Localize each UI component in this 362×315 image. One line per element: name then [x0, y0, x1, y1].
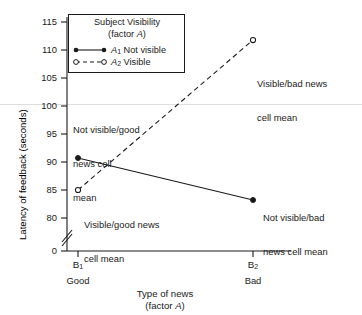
- x-tick-label-b1: B1: [58, 259, 98, 272]
- annotation-not-visible-good-line1: Not visible/good: [73, 124, 140, 135]
- x-tick-label-b2: B2: [233, 259, 273, 272]
- annotation-visible-good-line1: Visible/good news: [84, 219, 159, 230]
- y-tick-label-90: 90: [33, 156, 57, 167]
- y-tick-label-115: 115: [33, 16, 57, 27]
- legend-sample-a2: [74, 60, 107, 65]
- x-axis-title-line1: Type of news: [110, 288, 220, 299]
- legend-entry-a1-text: Not visible: [124, 45, 166, 55]
- annotation-not-visible-bad-line2: news cell mean: [263, 246, 328, 257]
- annotation-visible-bad-line2: cell mean: [257, 112, 327, 123]
- legend-title-line2: (factor A): [69, 29, 185, 40]
- legend-entry-a2-subscript: 2: [117, 60, 121, 67]
- y-tick-label-110: 110: [33, 44, 57, 55]
- annotation-not-visible-good-line2: news cell: [73, 158, 140, 169]
- y-tick-label-80: 80: [33, 212, 57, 223]
- legend-entry-a1-subscript: 1: [117, 48, 121, 55]
- line-chart-figure: 115 110 105 100 95 90 85 80 0 Latency of…: [0, 0, 362, 315]
- legend-title-prefix: (factor: [108, 29, 137, 39]
- x-axis-title-factor: A: [175, 300, 181, 311]
- y-axis-ticks: [61, 22, 67, 251]
- x-tick-label-b2-subscript: 2: [254, 263, 258, 270]
- y-tick-label-100: 100: [33, 100, 57, 111]
- legend-entry-a2-text: Visible: [124, 57, 151, 67]
- legend-sample-a1: [74, 48, 107, 53]
- y-tick-label-105: 105: [33, 72, 57, 83]
- legend-title-line1: Subject Visibility: [69, 17, 185, 28]
- y-axis-title: Latency of feedback (seconds): [17, 109, 28, 240]
- legend-entry-a1[interactable]: A1 Not visible: [111, 45, 166, 57]
- y-tick-label-95: 95: [33, 128, 57, 139]
- annotation-visible-bad-line1: Visible/bad news: [257, 78, 327, 89]
- legend-entry-a2[interactable]: A2 Visible: [111, 57, 151, 69]
- x-tick-name-good: Good: [58, 275, 98, 286]
- annotation-not-visible-bad-line1: Not visible/bad: [263, 212, 328, 223]
- x-tick-label-b1-subscript: 1: [79, 263, 83, 270]
- y-tick-label-85: 85: [33, 184, 57, 195]
- legend-title-suffix: ): [143, 29, 146, 39]
- y-tick-label-0: 0: [33, 245, 57, 256]
- x-tick-name-bad: Bad: [233, 275, 273, 286]
- series-a2-point-b2: [250, 37, 255, 42]
- annotation-visible-good: Visible/good news cell mean: [84, 196, 159, 287]
- annotation-visible-bad: Visible/bad news cell mean: [257, 55, 327, 146]
- x-axis-title-line2: (factor A): [110, 300, 220, 311]
- series-a1-point-b2: [251, 198, 256, 203]
